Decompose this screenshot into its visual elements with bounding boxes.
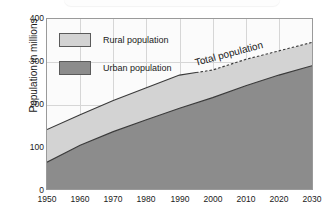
chart-figure: Population in millions 0 100 200 300 400 [0,0,329,221]
legend-label-urban: Urban population [103,63,172,73]
legend-label-rural: Rural population [103,35,169,45]
y-tick-300: 300 [6,56,44,66]
legend-item-rural: Rural population [59,33,172,47]
x-tick-2030: 2030 [292,194,329,204]
y-tick-100: 100 [6,142,44,152]
top-banner [64,0,280,6]
y-axis-ticks: 0 100 200 300 400 [0,0,44,221]
y-tick-400: 400 [6,13,44,23]
legend-swatch-rural [59,33,91,47]
y-tick-200: 200 [6,99,44,109]
x-axis-ticks: 1950 1960 1970 1980 1990 2000 2010 2020 … [0,194,329,210]
legend-swatch-urban [59,61,91,75]
chart-legend: Rural population Urban population [59,33,172,89]
plot-area: Rural population Urban population Total … [46,18,313,190]
legend-item-urban: Urban population [59,61,172,75]
